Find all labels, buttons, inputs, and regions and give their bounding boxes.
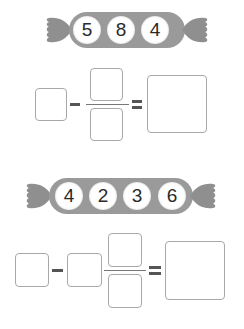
digit-ball: 6: [158, 182, 186, 210]
digit-ball: 3: [123, 182, 151, 210]
digit-ball: 4: [141, 16, 169, 44]
digit-ball: 8: [107, 16, 135, 44]
answer-box-result[interactable]: [165, 241, 225, 300]
answer-box-minuend[interactable]: [15, 253, 49, 287]
candy-1: 5 8 4: [44, 10, 210, 50]
answer-box-denominator[interactable]: [90, 108, 123, 141]
answer-box-numerator[interactable]: [108, 233, 142, 267]
candy-wrapper-right-icon: [188, 180, 218, 212]
minus-sign: [52, 269, 63, 272]
equals-sign-bottom: [149, 272, 161, 275]
minus-sign: [70, 103, 80, 106]
digit-ball: 5: [73, 16, 101, 44]
digit-ball: 4: [55, 182, 83, 210]
answer-box-numerator[interactable]: [90, 68, 123, 101]
fraction-bar: [86, 104, 129, 105]
candy-wrapper-right-icon: [180, 14, 210, 46]
equals-sign-top: [149, 266, 161, 269]
digit-ball: 2: [89, 182, 117, 210]
answer-box-denominator[interactable]: [108, 274, 142, 308]
answer-box-whole[interactable]: [67, 253, 102, 287]
fraction-bar: [104, 270, 146, 271]
answer-box-minuend[interactable]: [35, 88, 67, 121]
candy-2: 4 2 3 6: [24, 176, 218, 216]
answer-box-result[interactable]: [147, 75, 207, 133]
equals-sign-bottom: [132, 106, 142, 109]
equals-sign-top: [132, 100, 142, 103]
